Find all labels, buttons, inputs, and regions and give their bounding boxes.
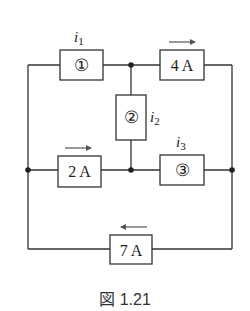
source-2a: 2 A: [58, 145, 101, 187]
figure-caption: 図 1.21: [99, 291, 151, 308]
junction-center: [128, 167, 134, 173]
element-2: ② i2: [116, 95, 160, 140]
element-3: ③ i3: [160, 134, 204, 185]
element-2-label: ②: [124, 108, 139, 127]
arrow-left-icon: [120, 224, 147, 230]
element-3-label: ③: [175, 161, 190, 180]
source-4a: 4 A: [160, 39, 204, 80]
current-i2-label: i2: [150, 109, 160, 127]
element-1: ① i1: [60, 29, 103, 80]
source-7a: 7 A: [110, 224, 152, 264]
source-7a-label: 7 A: [120, 242, 143, 259]
source-2a-label: 2 A: [68, 163, 91, 180]
junction-left: [25, 167, 31, 173]
element-1-label: ①: [74, 56, 89, 75]
circuit-diagram: ① i1 4 A ② i2 2 A ③ i3 7 A: [0, 0, 250, 311]
junction-top: [128, 62, 134, 68]
junction-right: [229, 167, 235, 173]
current-i1-label: i1: [74, 29, 84, 47]
current-i3-label: i3: [176, 134, 186, 152]
arrow-right-icon: [169, 39, 196, 45]
arrow-right-icon: [65, 145, 92, 151]
source-4a-label: 4 A: [171, 57, 194, 74]
